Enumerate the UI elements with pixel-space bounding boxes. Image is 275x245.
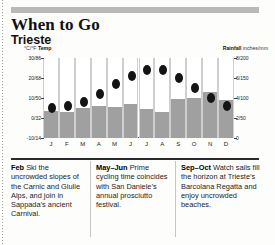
chart-column: [202, 58, 218, 138]
right-axis-tick-mark: [234, 138, 237, 139]
chart-column: [107, 58, 123, 138]
guidebook-page: When to Go Trieste °C/°F Temp Rainfall i…: [0, 0, 275, 245]
rainfall-bar: [171, 99, 185, 138]
header-band: [11, 7, 259, 13]
rainfall-bar: [155, 112, 169, 138]
rainfall-bar: [76, 108, 90, 138]
right-axis-title: Rainfall: [223, 45, 242, 51]
right-axis-tick-label: 2/50: [236, 115, 246, 121]
month-label: S: [170, 140, 186, 148]
rainfall-bar: [140, 109, 154, 138]
left-axis-caption: °C/°F Temp: [24, 45, 51, 51]
right-axis-tick-mark: [234, 118, 237, 119]
month-label: O: [186, 140, 202, 148]
month-label: N: [202, 140, 218, 148]
month-label: A: [91, 140, 107, 148]
tip-text: Ski the uncrowded slopes of the Carnic a…: [11, 163, 80, 218]
tip-divider-2: [175, 161, 176, 237]
chart-column: [186, 58, 202, 138]
rainfall-bar: [108, 107, 122, 138]
chart-column: [218, 58, 234, 138]
month-label: M: [75, 140, 91, 148]
left-axis-tick-mark: [41, 118, 44, 119]
temperature-dot: [191, 83, 199, 93]
seasonal-tips: Feb Ski the uncrowded slopes of the Carn…: [11, 158, 266, 242]
month-label: F: [59, 140, 75, 148]
month-label: M: [107, 140, 123, 148]
chart-column: [75, 58, 91, 138]
chart-column: [59, 58, 75, 138]
tip-period: Feb: [11, 163, 24, 172]
tip-item: Feb Ski the uncrowded slopes of the Carn…: [11, 163, 85, 219]
month-label: A: [154, 140, 170, 148]
chart-column: [139, 58, 155, 138]
right-axis-tick-label: 8/200: [236, 55, 249, 61]
tips-divider-rule: [11, 158, 259, 160]
left-axis-title: Temp: [38, 45, 51, 51]
month-axis: JFMAMJJASOND: [43, 140, 234, 150]
chart-column: [170, 58, 186, 138]
chart-column: [43, 58, 59, 138]
temperature-dot: [48, 103, 56, 113]
right-axis-unit: inches/mm: [241, 45, 268, 51]
rainfall-bar: [44, 111, 58, 138]
right-axis-caption: Rainfall inches/mm: [223, 45, 268, 51]
month-label: J: [139, 140, 155, 148]
temperature-dot: [223, 101, 231, 111]
chart-column: [123, 58, 139, 138]
chart-plot-area: 30/8620/6810/500/32-10/148/2006/1504/100…: [43, 58, 234, 138]
chart-column: [91, 58, 107, 138]
left-axis-tick-label: 10/50: [28, 95, 41, 101]
climate-chart: °C/°F Temp Rainfall inches/mm 30/8620/68…: [11, 45, 269, 157]
rainfall-bar: [92, 106, 106, 138]
tip-divider-1: [90, 161, 91, 237]
left-axis-unit: °C/°F: [24, 45, 38, 51]
temperature-dot: [175, 73, 183, 83]
tip-period: Sep–Oct: [181, 163, 211, 172]
temperature-dot: [80, 97, 88, 107]
right-axis-tick-label: 6/150: [236, 75, 249, 81]
left-axis-tick-label: 20/68: [28, 75, 41, 81]
tip-item: Sep–Oct Watch sails fill the horizon at …: [181, 163, 261, 209]
temperature-dot: [143, 65, 151, 75]
left-axis-tick-mark: [41, 138, 44, 139]
right-axis-tick-mark: [234, 98, 237, 99]
left-axis-tick-mark: [41, 98, 44, 99]
rainfall-bar: [124, 104, 138, 138]
tip-item: May–Jun Prime cycling time coincides wit…: [96, 163, 170, 209]
left-axis-tick-mark: [41, 78, 44, 79]
right-axis-tick-mark: [234, 58, 237, 59]
right-axis-tick-label: 4/100: [236, 95, 249, 101]
temperature-dot: [64, 101, 72, 111]
month-label: D: [218, 140, 234, 148]
rainfall-bar: [60, 112, 74, 138]
left-axis-tick-label: -10/14: [27, 135, 41, 141]
page-title: When to Go: [11, 15, 100, 34]
month-label: J: [43, 140, 59, 148]
left-axis-tick-mark: [41, 58, 44, 59]
chart-column: [154, 58, 170, 138]
month-label: J: [123, 140, 139, 148]
temperature-dot: [128, 71, 136, 81]
when-to-go-panel: When to Go Trieste °C/°F Temp Rainfall i…: [11, 0, 269, 245]
temperature-dot: [159, 65, 167, 75]
temperature-dot: [112, 79, 120, 89]
rainfall-bar: [187, 98, 201, 138]
tip-period: May–Jun: [96, 163, 128, 172]
left-axis-tick-label: 30/86: [28, 55, 41, 61]
right-axis-tick-mark: [234, 78, 237, 79]
temperature-dot: [96, 89, 104, 99]
page-margin-rule: [2, 0, 3, 245]
